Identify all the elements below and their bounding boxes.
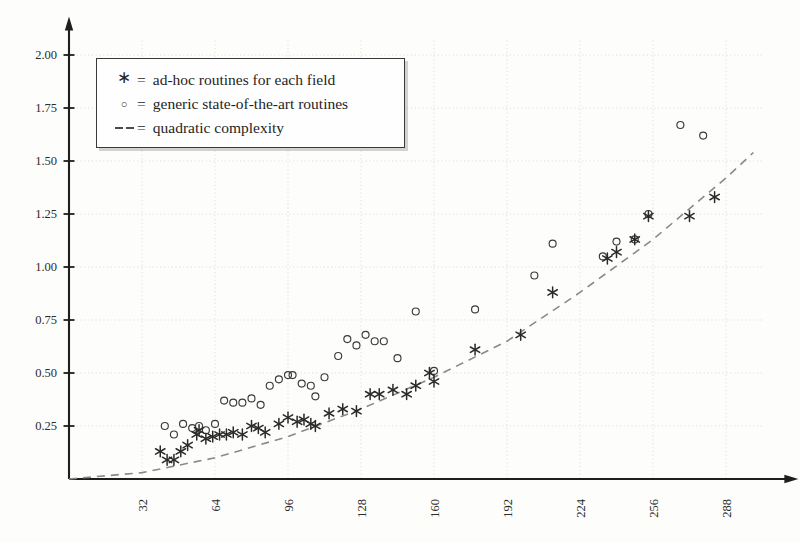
adhoc-data-point bbox=[516, 329, 525, 340]
x-tick-label: 224 bbox=[574, 498, 588, 518]
x-tick-label: 96 bbox=[282, 499, 296, 512]
x-tick-label: 128 bbox=[355, 499, 369, 518]
x-tick-label: 64 bbox=[209, 498, 223, 511]
generic-data-point bbox=[275, 376, 282, 383]
quadratic-complexity-curve bbox=[69, 153, 753, 479]
legend-entry-generic: ○ = generic state-of-the-art routines bbox=[97, 92, 404, 116]
generic-data-point bbox=[170, 431, 177, 438]
generic-data-point bbox=[307, 382, 314, 389]
generic-data-point bbox=[321, 374, 328, 381]
generic-data-point bbox=[700, 132, 707, 139]
legend-label-generic: generic state-of-the-art routines bbox=[153, 95, 348, 113]
y-tick-label: 0.75 bbox=[35, 313, 57, 327]
generic-data-point bbox=[230, 399, 237, 406]
adhoc-data-point bbox=[338, 404, 347, 415]
adhoc-data-point bbox=[156, 446, 165, 457]
adhoc-data-point bbox=[352, 406, 361, 417]
generic-data-point bbox=[257, 401, 264, 408]
adhoc-routines-points bbox=[156, 192, 720, 466]
adhoc-data-point bbox=[283, 412, 292, 423]
generic-data-point bbox=[362, 331, 369, 338]
x-tick-label: 32 bbox=[136, 499, 150, 512]
legend-equals-1: = bbox=[137, 95, 153, 113]
generic-data-point bbox=[380, 338, 387, 345]
generic-data-point bbox=[344, 336, 351, 343]
adhoc-data-point bbox=[311, 421, 320, 432]
adhoc-data-point bbox=[238, 429, 247, 440]
generic-data-point bbox=[549, 240, 556, 247]
generic-data-point bbox=[312, 393, 319, 400]
adhoc-data-point bbox=[425, 368, 434, 379]
adhoc-data-point bbox=[274, 418, 283, 429]
legend-equals-2: = bbox=[137, 119, 153, 137]
circle-marker-icon: ○ bbox=[111, 98, 137, 110]
legend-label-quadratic: quadratic complexity bbox=[153, 119, 284, 137]
adhoc-data-point bbox=[429, 376, 438, 387]
generic-data-point bbox=[266, 382, 273, 389]
adhoc-data-point bbox=[411, 380, 420, 391]
legend-entry-quadratic: = quadratic complexity bbox=[97, 116, 404, 140]
y-tick-label: 1.75 bbox=[35, 101, 57, 115]
generic-data-point bbox=[613, 238, 620, 245]
adhoc-data-point bbox=[603, 253, 612, 264]
adhoc-data-point bbox=[375, 389, 384, 400]
y-tick-label: 0.50 bbox=[35, 366, 57, 380]
legend-equals-0: = bbox=[137, 71, 153, 89]
adhoc-data-point bbox=[710, 192, 719, 203]
x-axis-tick-labels: 326496128160192224256288 bbox=[136, 498, 734, 518]
generic-data-point bbox=[335, 353, 342, 360]
adhoc-data-point bbox=[470, 344, 479, 355]
generic-data-point bbox=[221, 397, 228, 404]
dashed-line-marker-icon bbox=[111, 127, 137, 129]
chart-legend: ∗ = ad-hoc routines for each field ○ = g… bbox=[96, 58, 405, 148]
adhoc-data-point bbox=[162, 455, 171, 466]
adhoc-data-point bbox=[365, 389, 374, 400]
legend-entry-adhoc: ∗ = ad-hoc routines for each field bbox=[97, 68, 404, 92]
generic-data-point bbox=[412, 308, 419, 315]
x-tick-label: 256 bbox=[647, 499, 661, 518]
legend-label-adhoc: ad-hoc routines for each field bbox=[153, 71, 335, 89]
y-tick-label: 2.00 bbox=[35, 48, 57, 62]
generic-data-point bbox=[531, 272, 538, 279]
y-tick-label: 1.00 bbox=[35, 260, 57, 274]
adhoc-data-point bbox=[685, 211, 694, 222]
x-tick-label: 288 bbox=[720, 499, 734, 518]
asterisk-marker-icon: ∗ bbox=[111, 71, 137, 89]
adhoc-data-point bbox=[612, 247, 621, 258]
adhoc-data-point bbox=[402, 389, 411, 400]
generic-data-point bbox=[677, 121, 684, 128]
generic-data-point bbox=[472, 306, 479, 313]
generic-data-point bbox=[371, 338, 378, 345]
y-tick-label: 0.25 bbox=[35, 419, 57, 433]
x-tick-label: 160 bbox=[428, 499, 442, 518]
adhoc-data-point bbox=[548, 287, 557, 298]
generic-data-point bbox=[353, 342, 360, 349]
x-tick-label: 192 bbox=[501, 499, 515, 518]
generic-data-point bbox=[239, 399, 246, 406]
generic-data-point bbox=[298, 380, 305, 387]
y-tick-label: 1.25 bbox=[35, 207, 57, 221]
adhoc-data-point bbox=[169, 455, 178, 466]
generic-data-point bbox=[394, 355, 401, 362]
adhoc-data-point bbox=[324, 408, 333, 419]
chart-figure: 0.250.500.751.001.251.501.752.00 3264961… bbox=[0, 0, 800, 542]
adhoc-data-point bbox=[261, 427, 270, 438]
generic-data-point bbox=[289, 372, 296, 379]
y-axis-tick-labels: 0.250.500.751.001.251.501.752.00 bbox=[35, 48, 57, 433]
y-tick-label: 1.50 bbox=[35, 154, 57, 168]
generic-data-point bbox=[248, 395, 255, 402]
